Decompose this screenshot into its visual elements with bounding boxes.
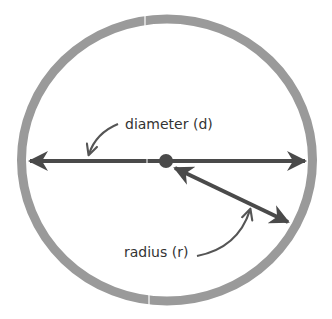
diameter-label: diameter (d) (125, 117, 213, 131)
diameter-pointer-icon (89, 124, 118, 154)
circle-diagram: diameter (d) radius (r) (0, 0, 332, 319)
radius-arrow (175, 168, 288, 222)
center-point (159, 154, 173, 168)
radius-pointer-icon (197, 210, 250, 256)
radius-label: radius (r) (124, 245, 188, 259)
